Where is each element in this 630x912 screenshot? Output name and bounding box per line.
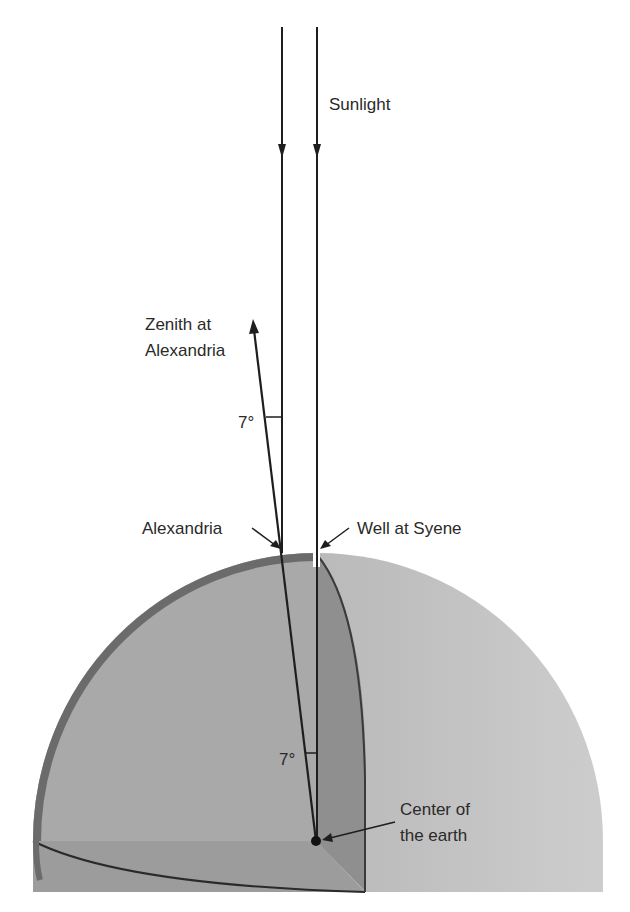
label-well-at-syene: Well at Syene (357, 519, 462, 538)
arrow-up-icon (249, 319, 259, 334)
label-center-line2: the earth (400, 826, 467, 845)
label-angle-center: 7° (279, 750, 295, 769)
arrow-icon (320, 540, 331, 549)
label-zenith-line2: Alexandria (145, 341, 226, 360)
label-alexandria: Alexandria (142, 519, 223, 538)
arrow-down-icon (278, 144, 286, 158)
eratosthenes-diagram: Sunlight Zenith at Alexandria 7° Alexand… (0, 0, 630, 912)
label-angle-upper: 7° (238, 413, 254, 432)
label-center-line1: Center of (400, 800, 470, 819)
label-sunlight: Sunlight (329, 95, 391, 114)
earth-center-dot (311, 836, 321, 846)
arrow-down-icon (313, 144, 321, 158)
label-zenith-line1: Zenith at (145, 315, 211, 334)
earth-bottom-wedge (33, 841, 365, 892)
